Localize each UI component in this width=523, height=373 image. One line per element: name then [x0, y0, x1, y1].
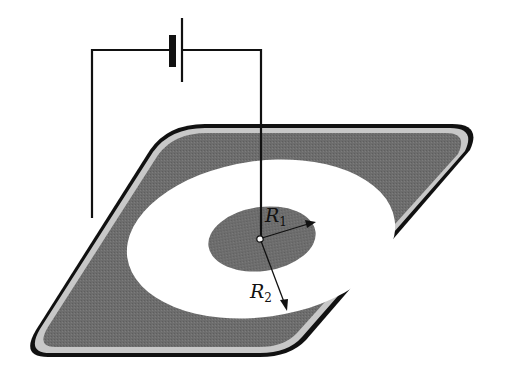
center-contact — [257, 236, 263, 242]
diagram-canvas: R1 R2 — [0, 0, 523, 373]
battery-negative-plate — [169, 35, 176, 67]
battery-icon — [169, 18, 182, 82]
